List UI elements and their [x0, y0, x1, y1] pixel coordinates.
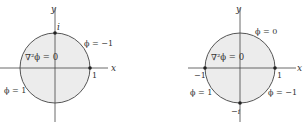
point-minus-i: [238, 101, 242, 105]
boundary-lower-left-label: ϕ = 1: [190, 88, 212, 97]
point-top-label: i: [57, 22, 60, 32]
point-1: [273, 66, 277, 70]
equation: ∇²ϕ = 0: [211, 52, 244, 62]
diagram-left: x y i 1 ∇²ϕ = 0 ϕ = −1 ϕ = 1: [0, 4, 116, 122]
diagram-right: x y −1 1 −i ∇²ϕ = 0 ϕ = 0 ϕ = 1 ϕ = −1: [188, 4, 302, 122]
point-left-label: −1: [194, 71, 206, 80]
figure: x y i 1 ∇²ϕ = 0 ϕ = −1 ϕ = 1 x y −1 1 −i…: [0, 0, 305, 132]
point-right-label: 1: [277, 71, 282, 80]
point-bottom-label: −i: [231, 107, 241, 116]
y-axis-label: y: [50, 4, 57, 14]
y-axis-label: y: [235, 4, 242, 14]
x-axis-label: x: [297, 63, 302, 73]
boundary-lower-label: ϕ = 1: [4, 86, 26, 95]
x-axis-label: x: [111, 63, 116, 73]
point-minus-1: [203, 66, 207, 70]
point-1: [88, 66, 92, 70]
boundary-upper-label: ϕ = 0: [255, 27, 277, 36]
boundary-upper-label: ϕ = −1: [84, 39, 113, 48]
equation: ∇²ϕ = 0: [25, 52, 58, 62]
point-right-label: 1: [92, 71, 97, 80]
boundary-lower-right-label: ϕ = −1: [268, 88, 297, 97]
